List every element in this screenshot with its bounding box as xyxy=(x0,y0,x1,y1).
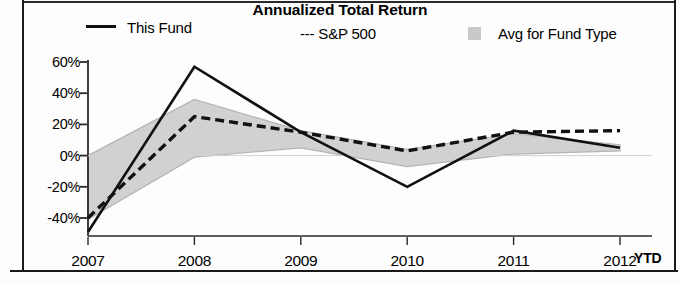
x-axis-ytd-label: YTD xyxy=(634,250,661,266)
y-tick-label: -20% xyxy=(18,179,80,195)
x-tick-label: 2009 xyxy=(284,252,317,270)
y-tick-label: 20% xyxy=(18,116,80,132)
plot-area xyxy=(0,0,680,284)
x-axis-tick-labels: 200720082009201020112012 xyxy=(0,248,680,274)
y-tick-label: 0% xyxy=(18,148,80,164)
x-tick-label: 2008 xyxy=(178,252,211,270)
x-tick-label: 2010 xyxy=(391,252,424,270)
annualized-total-return-chart: Annualized Total Return This Fund --- S&… xyxy=(0,0,680,284)
x-tick-label: 2007 xyxy=(71,252,104,270)
x-tick-label: 2012 xyxy=(603,252,636,270)
y-tick-label: 40% xyxy=(18,85,80,101)
plot-svg xyxy=(0,0,680,284)
y-axis-tick-labels: 60%40%20%0%-20%-40% xyxy=(18,0,80,284)
x-tick-label: 2011 xyxy=(498,252,530,270)
y-tick-label: -40% xyxy=(18,210,80,226)
y-tick-label: 60% xyxy=(18,54,80,70)
